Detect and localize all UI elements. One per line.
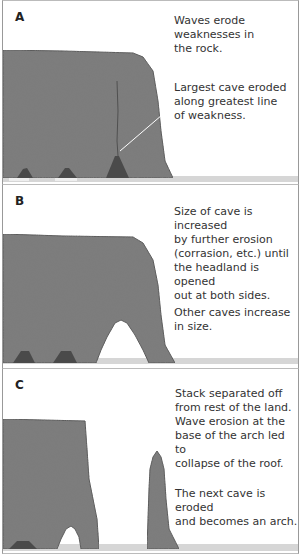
caption-next-cave: The next cave is eroded and becomes an a…	[175, 487, 298, 529]
panel-b: B Size of cave is increased by further e…	[2, 184, 299, 368]
arch-rock	[3, 234, 175, 363]
caption-largest-cave: Largest cave eroded along greatest line …	[174, 81, 287, 123]
caption-stack-separated: Stack separated off from rest of the lan…	[175, 387, 298, 471]
cliff-with-arch	[3, 419, 99, 549]
headland-rock	[3, 50, 173, 178]
panel-label: B	[15, 194, 24, 208]
panel-label: C	[15, 378, 24, 392]
caption-other-caves: Other caves increase in size.	[174, 306, 290, 334]
panel-label: A	[15, 10, 24, 24]
panel-a: A Waves erode weaknesses in the rock. La…	[2, 0, 299, 184]
caption-cave-increased: Size of cave is increased by further ero…	[174, 205, 298, 303]
caption-waves-erode: Waves erode weaknesses in the rock.	[174, 14, 254, 56]
panel-c: C Stack separated off from rest of the l…	[2, 368, 299, 554]
